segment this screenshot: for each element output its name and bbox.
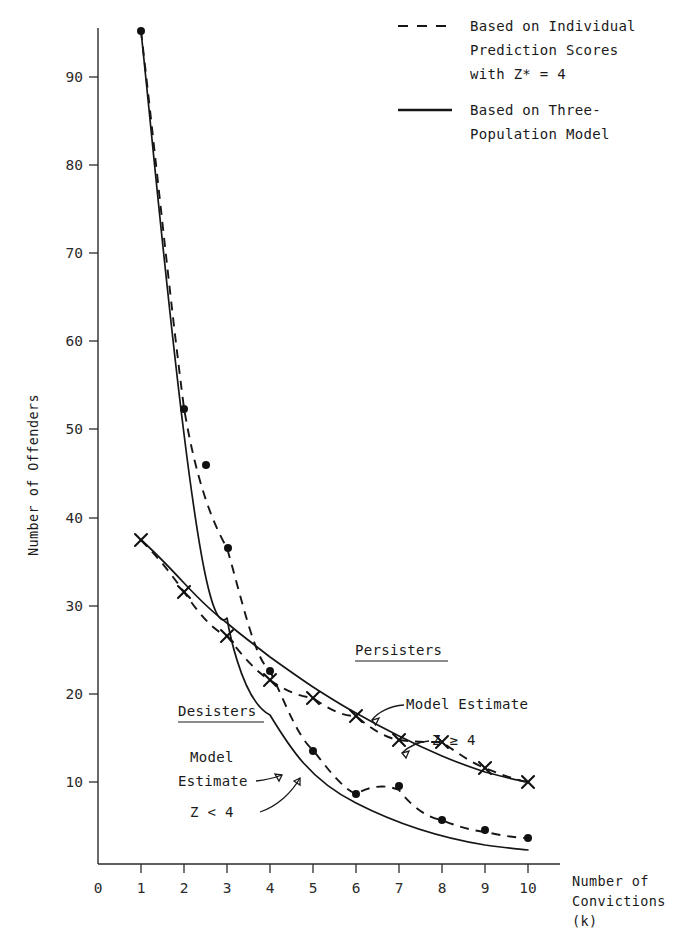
data-point-desisters-k5 xyxy=(309,747,317,755)
annotation-desisters: Desisters xyxy=(178,703,264,722)
annotation-desisters-model-line1: Model xyxy=(190,749,234,765)
data-point-desisters-k1 xyxy=(137,27,145,35)
data-point-desisters-k4 xyxy=(266,667,274,675)
x-axis-ticks: 0 1 2 3 4 5 6 7 8 9 10 xyxy=(94,864,537,896)
data-point-desisters-k2-5 xyxy=(202,461,210,469)
data-point-persisters-k5 xyxy=(307,692,319,704)
chart-figure: 90 80 70 60 50 40 30 20 10 0 1 2 xyxy=(0,0,677,938)
offenders-convictions-line-chart: 90 80 70 60 50 40 30 20 10 0 1 2 xyxy=(0,0,677,938)
leader-persisters-model-estimate xyxy=(372,705,404,720)
annotation-desisters-label: Desisters xyxy=(178,703,257,719)
x-tick-label-0: 0 xyxy=(94,880,103,896)
x-tick-label-9: 9 xyxy=(481,880,490,896)
x-tick-label-8: 8 xyxy=(438,880,447,896)
y-axis-ticks: 90 80 70 60 50 40 30 20 10 xyxy=(66,69,98,790)
data-point-desisters-k9 xyxy=(481,826,489,834)
legend-entry-2-line-2: Population Model xyxy=(470,126,610,142)
y-tick-label-80: 80 xyxy=(66,157,83,173)
y-tick-label-20: 20 xyxy=(66,686,83,702)
data-point-desisters-k2 xyxy=(180,405,188,413)
data-point-desisters-k7 xyxy=(395,782,403,790)
data-point-desisters-k3 xyxy=(224,544,232,552)
data-point-persisters-k2 xyxy=(178,586,190,598)
y-tick-label-60: 60 xyxy=(66,333,83,349)
x-axis-title-line2: Convictions xyxy=(572,893,666,909)
y-tick-label-50: 50 xyxy=(66,421,83,437)
y-tick-label-90: 90 xyxy=(66,69,83,85)
legend-entry-2-line-1: Based on Three- xyxy=(470,102,601,118)
legend-entry-1-line-1: Based on Individual xyxy=(470,18,636,34)
annotation-desisters-model-line2: Estimate xyxy=(178,773,248,789)
y-axis-title: Number of Offenders xyxy=(25,394,41,556)
annotation-persisters: Persisters xyxy=(355,642,448,661)
leader-desisters-z xyxy=(260,778,300,812)
legend: Based on Individual Prediction Scores wi… xyxy=(398,18,636,142)
data-point-desisters-k8 xyxy=(438,816,446,824)
data-point-persisters-k1 xyxy=(135,534,147,546)
axes-group xyxy=(98,28,560,864)
legend-entry-1-line-3: with Z* = 4 xyxy=(470,66,566,82)
y-tick-label-40: 40 xyxy=(66,510,83,526)
x-tick-label-2: 2 xyxy=(180,880,189,896)
legend-entry-1-line-2: Prediction Scores xyxy=(470,42,618,58)
annotation-desisters-z-label: Z < 4 xyxy=(190,804,234,820)
x-tick-label-4: 4 xyxy=(266,880,275,896)
data-point-persisters-k4 xyxy=(264,674,276,686)
x-tick-label-10: 10 xyxy=(519,880,536,896)
leader-arrowhead-persisters-model xyxy=(372,718,379,725)
annotation-persisters-model-estimate: Model Estimate xyxy=(406,696,528,712)
x-tick-label-1: 1 xyxy=(137,880,146,896)
data-point-desisters-k6 xyxy=(352,790,360,798)
x-tick-label-7: 7 xyxy=(395,880,404,896)
x-tick-label-6: 6 xyxy=(352,880,361,896)
desisters-model-curve xyxy=(141,31,528,850)
annotation-persisters-z-label: Z ≥ 4 xyxy=(432,732,476,748)
desisters-markers xyxy=(137,27,532,842)
x-axis-title-line3: (k) xyxy=(572,913,598,929)
data-point-desisters-k10 xyxy=(524,834,532,842)
y-tick-label-70: 70 xyxy=(66,245,83,261)
x-tick-label-3: 3 xyxy=(223,880,232,896)
x-tick-label-5: 5 xyxy=(309,880,318,896)
y-tick-label-30: 30 xyxy=(66,598,83,614)
annotation-persisters-label: Persisters xyxy=(355,642,442,658)
x-axis-title-line1: Number of xyxy=(572,873,649,889)
leader-arrowhead-persisters-z xyxy=(402,751,409,758)
y-tick-label-10: 10 xyxy=(66,774,83,790)
